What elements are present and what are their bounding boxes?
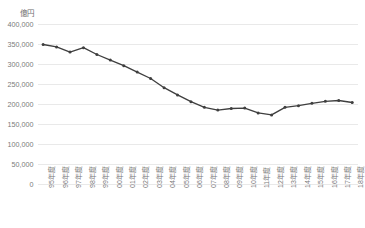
data-point: [257, 111, 260, 114]
data-point: [136, 71, 139, 74]
data-point: [310, 102, 313, 105]
data-point: [270, 113, 273, 116]
data-point: [42, 43, 45, 46]
y-axis-tick-label: 150,000: [8, 120, 34, 129]
y-axis-tick-label: 350,000: [8, 40, 34, 49]
y-axis-tick-label: 100,000: [8, 140, 34, 149]
data-point: [189, 100, 192, 103]
data-point: [69, 51, 72, 54]
data-point: [82, 46, 85, 49]
data-point: [284, 106, 287, 109]
series-markers: [42, 43, 354, 116]
data-point: [163, 86, 166, 89]
data-point: [230, 107, 233, 110]
data-point: [203, 106, 206, 109]
data-point: [243, 107, 246, 110]
data-point: [351, 101, 354, 104]
data-point: [297, 104, 300, 107]
y-axis-tick-label: 0: [30, 180, 34, 189]
y-axis-ticks: 400,000350,000300,000250,000200,000150,0…: [8, 20, 34, 189]
y-axis-tick-label: 300,000: [8, 60, 34, 69]
y-axis-tick-label: 400,000: [8, 20, 34, 29]
data-point: [337, 99, 340, 102]
y-axis-tick-label: 50,000: [12, 160, 34, 169]
data-point: [95, 53, 98, 56]
data-point: [324, 100, 327, 103]
y-axis-tick-label: 250,000: [8, 80, 34, 89]
data-point: [216, 109, 219, 112]
y-axis-tick-label: 200,000: [8, 100, 34, 109]
data-point: [109, 59, 112, 62]
data-point: [122, 64, 125, 67]
data-point: [149, 77, 152, 80]
data-point: [55, 45, 58, 48]
data-point: [176, 93, 179, 96]
